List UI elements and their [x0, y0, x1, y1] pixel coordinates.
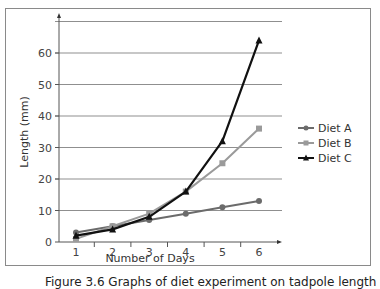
y-tick-labels: 0102030405060 — [38, 47, 59, 249]
y-tick-label: 50 — [38, 79, 52, 92]
series-line — [76, 201, 259, 233]
legend-item: Diet B — [298, 137, 352, 150]
y-tick-label: 20 — [38, 173, 52, 186]
circle-marker-icon — [219, 204, 225, 210]
triangle-marker-icon — [256, 36, 263, 43]
circle-marker-icon — [256, 198, 262, 204]
square-marker-icon — [219, 160, 225, 166]
square-marker-icon — [304, 141, 309, 146]
legend-item: Diet A — [298, 122, 352, 135]
y-axis-arrow-icon — [57, 13, 61, 18]
triangle-marker-icon — [219, 137, 226, 144]
y-axis-label: Length (mm) — [18, 96, 31, 167]
circle-marker-icon — [304, 126, 309, 131]
x-axis-label: Number of Days — [105, 252, 195, 265]
legend: Diet ADiet BDiet C — [298, 122, 352, 165]
series-line — [76, 129, 259, 239]
x-axis-arrow-icon — [277, 240, 282, 244]
circle-marker-icon — [183, 211, 189, 217]
series-diet-c — [73, 36, 263, 238]
y-tick-label: 30 — [38, 142, 52, 155]
y-tick-label: 10 — [38, 205, 52, 218]
legend-label: Diet C — [318, 152, 352, 165]
x-tick-label: 6 — [256, 246, 263, 259]
x-tick-label: 5 — [219, 246, 226, 259]
legend-label: Diet B — [318, 137, 352, 150]
figure-caption: Figure 3.6 Graphs of diet experiment on … — [45, 275, 376, 289]
axes — [57, 13, 282, 244]
series-diet-b — [73, 126, 262, 242]
legend-item: Diet C — [298, 152, 352, 165]
gridlines — [55, 22, 282, 211]
y-tick-label: 40 — [38, 110, 52, 123]
data-series — [73, 36, 263, 241]
x-tick-label: 1 — [73, 246, 80, 259]
square-marker-icon — [256, 126, 262, 132]
y-tick-label: 0 — [45, 236, 52, 249]
y-tick-label: 60 — [38, 47, 52, 60]
legend-label: Diet A — [318, 122, 352, 135]
